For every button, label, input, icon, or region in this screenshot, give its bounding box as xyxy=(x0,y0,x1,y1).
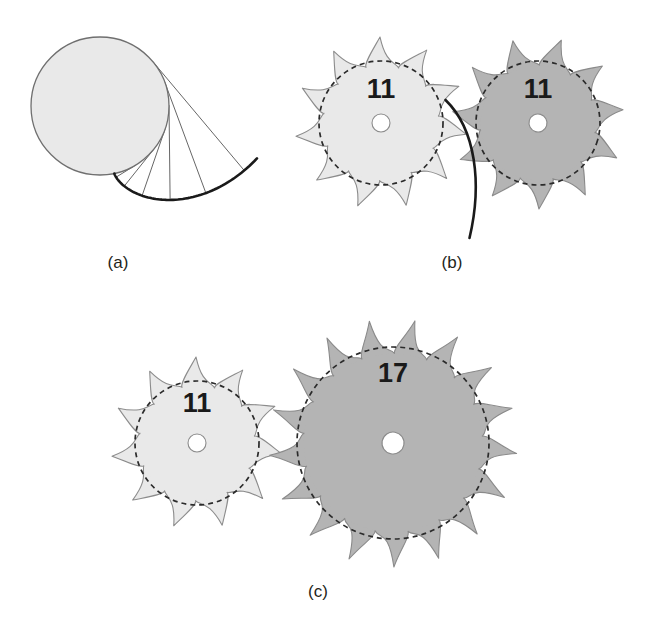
gear-tooth-count-label-left-gear: 11 xyxy=(367,74,396,104)
gear-hub-hole xyxy=(188,434,206,452)
gear-figure: (a) 1111 (b) 1117 (c) xyxy=(0,0,653,633)
gear-tooth-count-label-right-gear: 11 xyxy=(524,74,553,104)
base-circle xyxy=(31,37,169,175)
panel-label-b: (b) xyxy=(442,253,463,272)
gear-tooth-count-label-large-gear: 17 xyxy=(378,358,408,388)
gear-tooth-count-label-small-gear: 11 xyxy=(183,388,212,418)
panel-label-c: (c) xyxy=(308,582,328,601)
panel-label-a: (a) xyxy=(108,253,129,272)
gear-hub-hole xyxy=(372,114,390,132)
